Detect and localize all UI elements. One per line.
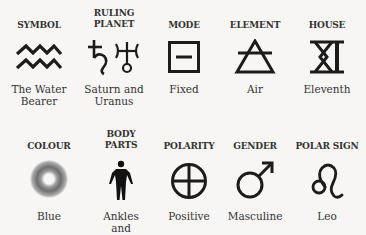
roman-eleven-icon bbox=[309, 40, 345, 74]
fixed-mode-square-icon bbox=[167, 40, 201, 74]
attribute-symbol: SYMBOL The Water Bearer bbox=[3, 0, 75, 118]
attribute-value: Ankles and Circulation bbox=[85, 210, 157, 235]
attribute-value: Positive bbox=[153, 210, 225, 222]
attribute-value: Air bbox=[219, 83, 291, 95]
attribute-colour: COLOUR Blue bbox=[13, 118, 85, 235]
attribute-polarity: POLARITY Positive bbox=[153, 118, 225, 235]
attribute-polar-sign: POLAR SIGN Leo bbox=[291, 118, 363, 235]
attribute-value: Blue bbox=[13, 210, 85, 222]
attribute-value: Saturn and Uranus bbox=[78, 83, 150, 107]
attribute-house: HOUSE Eleventh bbox=[291, 0, 363, 118]
attribute-mode: MODE Fixed bbox=[148, 0, 220, 118]
attribute-label: MODE bbox=[148, 20, 220, 31]
attribute-label: RULING PLANET bbox=[78, 8, 150, 30]
attribute-label: ELEMENT bbox=[219, 20, 291, 31]
attribute-value: Eleventh bbox=[291, 83, 363, 95]
attribute-body-parts: BODY PARTS Ankles and Circulation bbox=[85, 118, 157, 235]
attribute-label: HOUSE bbox=[291, 20, 363, 31]
attribute-value: Leo bbox=[291, 210, 363, 222]
attribute-value: The Water Bearer bbox=[3, 83, 75, 107]
attribute-label: GENDER bbox=[219, 141, 291, 152]
attribute-element: ELEMENT Air bbox=[219, 0, 291, 118]
aquarius-waves-icon bbox=[15, 40, 63, 74]
male-symbol-icon bbox=[234, 160, 276, 200]
human-figure-icon bbox=[107, 160, 135, 202]
attribute-label: SYMBOL bbox=[3, 20, 75, 31]
attribute-value: Fixed bbox=[148, 83, 220, 95]
saturn-uranus-icon bbox=[86, 38, 142, 76]
attribute-label: POLARITY bbox=[153, 141, 225, 152]
attribute-gender: GENDER Masculine bbox=[219, 118, 291, 235]
attribute-label: POLAR SIGN bbox=[291, 141, 363, 152]
blue-swirl-icon bbox=[30, 160, 68, 198]
positive-circle-plus-icon bbox=[170, 162, 208, 200]
attribute-label: BODY PARTS bbox=[85, 129, 157, 151]
attribute-label: COLOUR bbox=[13, 141, 85, 152]
air-element-triangle-icon bbox=[234, 39, 276, 75]
attribute-ruling-planet: RULING PLANET Saturn and Uranus bbox=[78, 0, 150, 118]
attribute-value: Masculine bbox=[219, 210, 291, 222]
leo-symbol-icon bbox=[310, 161, 344, 201]
